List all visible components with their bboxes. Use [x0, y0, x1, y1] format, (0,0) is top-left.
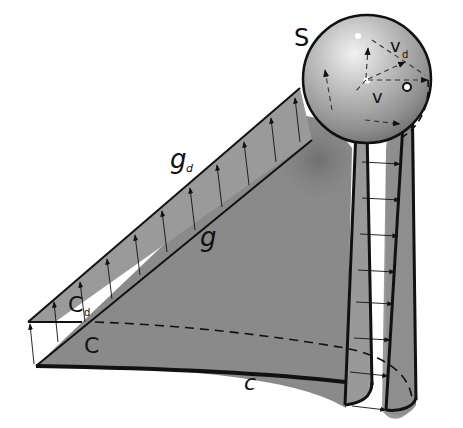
label-v: v — [372, 86, 383, 107]
label-C-d: C — [68, 292, 83, 317]
label-c: c — [244, 370, 256, 395]
label-C: C — [84, 333, 99, 358]
label-v-d-sub: d — [402, 49, 408, 60]
label-g: g — [200, 222, 217, 252]
label-C-d-sub: d — [84, 307, 90, 318]
label-S: S — [294, 24, 309, 52]
label-g-d: g — [170, 144, 187, 174]
sphere-highlight — [355, 33, 361, 39]
diagram: S v d v g d g C d C c — [0, 0, 463, 428]
contact-point — [403, 83, 411, 91]
label-g-d-sub: d — [186, 162, 194, 175]
label-v-d: v — [390, 35, 401, 56]
